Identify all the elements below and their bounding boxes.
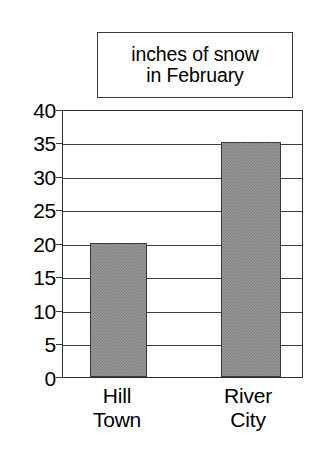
y-axis-label-10: 10 [33, 301, 56, 322]
x-axis-label-river-city: River City [189, 384, 307, 431]
x-axis-label-river-city-line-2: City [189, 408, 307, 432]
y-axis-label-40: 40 [33, 100, 56, 121]
y-axis-label-35: 35 [33, 133, 56, 154]
plot-area [62, 110, 303, 378]
x-axis-label-hill-town-line-2: Town [58, 408, 176, 432]
y-axis-label-20: 20 [33, 234, 56, 255]
bar-river-city [221, 142, 281, 377]
bar-hill-town [90, 243, 147, 377]
y-axis-label-30: 30 [33, 167, 56, 188]
y-axis-label-0: 0 [45, 368, 56, 389]
y-axis-label-25: 25 [33, 200, 56, 221]
bar-chart-figure: inches of snow in February 40 35 30 25 2… [0, 0, 330, 460]
x-axis-label-hill-town: Hill Town [58, 384, 176, 431]
y-axis-label-5: 5 [45, 334, 56, 355]
y-axis-label-15: 15 [33, 267, 56, 288]
chart-title-line-1: inches of snow [131, 44, 259, 65]
x-axis-label-hill-town-line-1: Hill [58, 384, 176, 408]
chart-title-line-2: in February [146, 65, 244, 86]
chart-title-box: inches of snow in February [97, 32, 293, 98]
x-axis-label-river-city-line-1: River [189, 384, 307, 408]
